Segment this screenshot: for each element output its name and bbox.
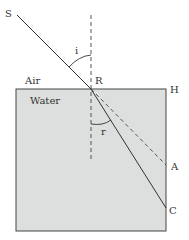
label-i: i — [75, 45, 78, 56]
label-s: S — [5, 8, 12, 19]
refraction-diagram: S i Air R H Water r A C — [0, 0, 189, 240]
label-a: A — [170, 161, 179, 172]
label-air: Air — [24, 75, 40, 86]
label-c: C — [169, 205, 177, 216]
label-r-angle: r — [101, 126, 106, 137]
label-water: Water — [30, 95, 60, 106]
angle-i-arc — [69, 55, 91, 67]
label-h: H — [170, 84, 179, 95]
label-r-point: R — [95, 75, 103, 86]
